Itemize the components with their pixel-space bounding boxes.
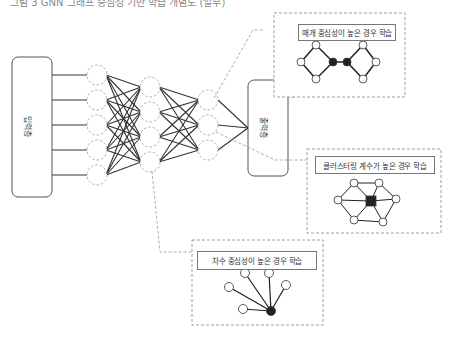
neuron-node xyxy=(87,65,107,85)
panel-title-clustering: 클러스터링 계수가 높은 경우 학습 xyxy=(315,156,435,174)
hub-node xyxy=(343,58,351,66)
hub-node xyxy=(329,58,337,66)
output-layer-label: 출력층 xyxy=(259,117,270,138)
hub-node xyxy=(267,307,276,316)
neuron-node xyxy=(198,115,218,135)
neuron-node xyxy=(87,165,107,185)
neuron-node xyxy=(140,152,160,172)
neuron-node xyxy=(87,140,107,160)
neuron-node xyxy=(198,90,218,110)
network-nodes xyxy=(87,65,218,185)
panel-title-betweenness: 매개 중심성이 높은 경우 학습 xyxy=(298,24,396,41)
hub-node xyxy=(366,196,376,206)
neuron-node xyxy=(87,90,107,110)
connector-degree xyxy=(152,171,192,252)
neuron-node xyxy=(198,140,218,160)
neuron-node xyxy=(140,102,160,122)
neuron-node xyxy=(140,127,160,147)
input-layer-label: 입력층 xyxy=(23,116,34,137)
neuron-node xyxy=(87,115,107,135)
panel-title-degree: 차수 중심성이 높은 경우 학습 xyxy=(197,251,317,270)
neuron-node xyxy=(140,77,160,97)
